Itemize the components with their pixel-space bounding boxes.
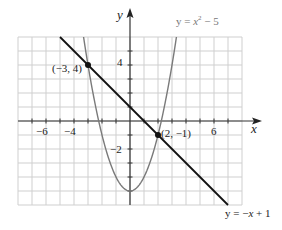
x-tick-label-6: 6 <box>211 126 217 137</box>
intersection-point-1 <box>85 62 91 68</box>
x-axis-label: x <box>251 122 257 135</box>
x-tick-label-neg6: −6 <box>36 126 48 137</box>
plot-area <box>0 0 282 230</box>
parabola-equation-label: y = x2 − 5 <box>176 15 219 27</box>
x-tick-label-neg4: −4 <box>64 126 76 137</box>
point-label-neg3-4: (−3, 4) <box>52 63 82 74</box>
y-tick-label-neg2: −2 <box>110 144 122 155</box>
y-tick-label-4: 4 <box>117 57 123 68</box>
y-axis-label: y <box>117 8 123 21</box>
line-equation-label: y = −x + 1 <box>225 208 271 219</box>
point-label-2-neg1: (2, −1) <box>161 128 191 139</box>
